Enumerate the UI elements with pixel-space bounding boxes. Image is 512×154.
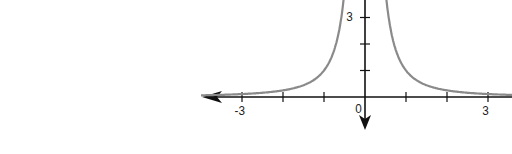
x-tick-label-3: 3: [482, 103, 489, 118]
curve-right-branch: [383, 0, 512, 95]
origin-label: 0: [355, 101, 362, 116]
y-tick-label-3: 3: [346, 9, 353, 24]
x-tick-label-neg3: -3: [235, 103, 245, 118]
curve-left-branch: [201, 0, 347, 95]
graph-canvas: [0, 0, 512, 154]
